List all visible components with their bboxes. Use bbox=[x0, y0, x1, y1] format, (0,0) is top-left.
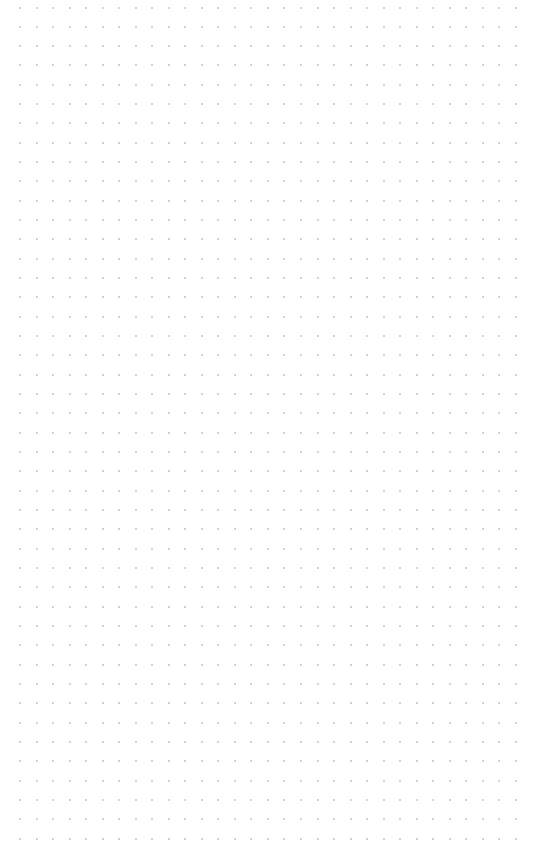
grid-dot bbox=[317, 7, 319, 9]
grid-dot bbox=[135, 586, 137, 588]
grid-dot bbox=[366, 354, 368, 356]
grid-dot bbox=[250, 818, 252, 820]
grid-dot bbox=[416, 722, 418, 724]
grid-dot bbox=[482, 838, 484, 840]
grid-dot bbox=[350, 664, 352, 666]
grid-dot bbox=[69, 741, 71, 743]
grid-dot bbox=[201, 161, 203, 163]
grid-dot bbox=[333, 760, 335, 762]
grid-dot bbox=[449, 316, 451, 318]
grid-dot bbox=[416, 644, 418, 646]
grid-dot bbox=[399, 838, 401, 840]
grid-dot bbox=[283, 316, 285, 318]
grid-dot bbox=[234, 374, 236, 376]
grid-dot bbox=[399, 142, 401, 144]
grid-dot bbox=[69, 26, 71, 28]
grid-dot bbox=[19, 818, 21, 820]
grid-dot bbox=[399, 258, 401, 260]
grid-dot bbox=[350, 238, 352, 240]
grid-dot bbox=[383, 818, 385, 820]
grid-dot bbox=[350, 335, 352, 337]
grid-dot bbox=[515, 470, 517, 472]
grid-dot bbox=[383, 335, 385, 337]
grid-dot bbox=[36, 818, 38, 820]
grid-dot bbox=[350, 316, 352, 318]
grid-dot bbox=[350, 432, 352, 434]
grid-dot bbox=[465, 664, 467, 666]
grid-dot bbox=[449, 296, 451, 298]
grid-dot bbox=[19, 258, 21, 260]
grid-dot bbox=[234, 683, 236, 685]
grid-dot bbox=[102, 722, 104, 724]
grid-dot bbox=[383, 7, 385, 9]
grid-dot bbox=[135, 103, 137, 105]
grid-dot bbox=[283, 180, 285, 182]
grid-dot bbox=[36, 509, 38, 511]
grid-dot bbox=[465, 393, 467, 395]
grid-dot bbox=[69, 142, 71, 144]
grid-dot bbox=[234, 45, 236, 47]
grid-dot bbox=[102, 26, 104, 28]
grid-dot bbox=[416, 374, 418, 376]
grid-dot bbox=[19, 84, 21, 86]
grid-dot bbox=[151, 7, 153, 9]
grid-dot bbox=[498, 354, 500, 356]
grid-dot bbox=[300, 741, 302, 743]
grid-dot bbox=[449, 412, 451, 414]
grid-dot bbox=[350, 122, 352, 124]
grid-dot bbox=[383, 490, 385, 492]
grid-dot bbox=[36, 528, 38, 530]
grid-dot bbox=[36, 103, 38, 105]
grid-dot bbox=[234, 26, 236, 28]
grid-dot bbox=[333, 490, 335, 492]
grid-dot bbox=[300, 586, 302, 588]
grid-dot bbox=[300, 799, 302, 801]
grid-dot bbox=[482, 470, 484, 472]
grid-dot bbox=[449, 799, 451, 801]
grid-dot bbox=[19, 664, 21, 666]
grid-dot bbox=[184, 625, 186, 627]
grid-dot bbox=[168, 432, 170, 434]
grid-dot bbox=[333, 412, 335, 414]
grid-dot bbox=[350, 780, 352, 782]
grid-dot bbox=[69, 683, 71, 685]
grid-dot bbox=[350, 84, 352, 86]
grid-dot bbox=[333, 548, 335, 550]
grid-dot bbox=[333, 103, 335, 105]
grid-dot bbox=[135, 238, 137, 240]
grid-dot bbox=[36, 799, 38, 801]
grid-dot bbox=[383, 180, 385, 182]
grid-dot bbox=[250, 470, 252, 472]
grid-dot bbox=[399, 180, 401, 182]
grid-dot bbox=[432, 838, 434, 840]
grid-dot bbox=[217, 644, 219, 646]
grid-dot bbox=[234, 702, 236, 704]
grid-dot bbox=[234, 451, 236, 453]
grid-dot bbox=[201, 664, 203, 666]
grid-dot bbox=[283, 490, 285, 492]
dot-grid-canvas[interactable] bbox=[0, 0, 534, 863]
grid-dot bbox=[465, 799, 467, 801]
grid-dot bbox=[267, 432, 269, 434]
grid-dot bbox=[118, 664, 120, 666]
grid-dot bbox=[465, 818, 467, 820]
grid-dot bbox=[416, 528, 418, 530]
grid-dot bbox=[250, 412, 252, 414]
grid-dot bbox=[118, 45, 120, 47]
grid-dot bbox=[300, 393, 302, 395]
grid-dot bbox=[168, 412, 170, 414]
grid-dot bbox=[399, 664, 401, 666]
grid-dot bbox=[416, 625, 418, 627]
grid-dot bbox=[168, 161, 170, 163]
grid-dot bbox=[317, 567, 319, 569]
grid-dot bbox=[36, 64, 38, 66]
grid-dot bbox=[515, 586, 517, 588]
grid-dot bbox=[333, 509, 335, 511]
grid-dot bbox=[300, 818, 302, 820]
grid-dot bbox=[366, 180, 368, 182]
grid-dot bbox=[449, 625, 451, 627]
grid-dot bbox=[201, 412, 203, 414]
grid-dot bbox=[85, 26, 87, 28]
grid-dot bbox=[52, 625, 54, 627]
grid-dot bbox=[333, 799, 335, 801]
